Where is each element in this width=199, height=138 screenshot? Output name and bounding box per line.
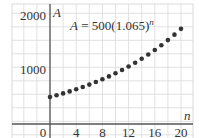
- data-point: [153, 48, 158, 53]
- data-point: [74, 87, 79, 92]
- x-tick-label: 12: [122, 125, 135, 138]
- x-axis-label: n: [184, 108, 191, 123]
- data-point: [139, 56, 144, 61]
- data-point: [126, 64, 131, 69]
- data-point: [166, 38, 171, 43]
- data-point: [48, 95, 53, 100]
- equation-lhs: A: [69, 18, 78, 33]
- data-point: [159, 43, 164, 48]
- data-point: [61, 91, 66, 96]
- data-point: [133, 60, 138, 65]
- equation-base: 500(1.065): [92, 18, 149, 33]
- data-point: [179, 27, 184, 32]
- data-point: [80, 85, 85, 90]
- data-point: [54, 93, 59, 98]
- data-point: [100, 77, 105, 82]
- data-point: [113, 71, 118, 76]
- y-tick-label: 1000: [20, 62, 46, 77]
- data-point: [120, 68, 125, 73]
- x-tick-label: 0: [40, 125, 47, 138]
- equation-exponent: n: [149, 17, 154, 27]
- data-point: [94, 80, 99, 85]
- x-tick-label: 8: [99, 125, 106, 138]
- data-point: [67, 89, 72, 94]
- x-tick-label: 4: [73, 125, 80, 138]
- data-point: [146, 52, 151, 57]
- y-axis-label: A: [52, 5, 61, 20]
- data-point: [107, 74, 112, 79]
- y-tick-label: 2000: [20, 8, 46, 23]
- exponential-growth-chart: 048121620 10002000 A n A = 500(1.065)n: [0, 0, 199, 138]
- x-tick-labels: 048121620: [40, 125, 188, 138]
- x-tick-label: 16: [148, 125, 162, 138]
- equation-equals: =: [78, 18, 92, 33]
- equation-label: A = 500(1.065)n: [69, 17, 154, 33]
- data-point: [87, 82, 92, 87]
- data-point: [172, 32, 177, 37]
- x-tick-label: 20: [175, 125, 188, 138]
